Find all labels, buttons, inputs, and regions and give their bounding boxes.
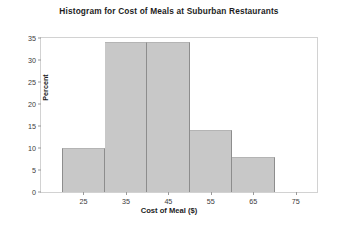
histogram-bar: [232, 157, 274, 192]
y-axis-tick-label: 25: [2, 78, 36, 87]
histogram-bar: [147, 42, 189, 192]
y-axis-tick-mark: [38, 82, 41, 83]
y-axis-tick-mark: [38, 148, 41, 149]
x-axis-tick-label: 45: [148, 197, 188, 206]
chart-title: Histogram for Cost of Meals at Suburban …: [0, 6, 338, 16]
y-axis-tick-label: 20: [2, 100, 36, 109]
x-axis-tick-mark: [296, 192, 297, 195]
y-axis-tick-mark: [38, 126, 41, 127]
histogram-bar: [190, 130, 232, 192]
y-axis-tick-label: 30: [2, 56, 36, 65]
histogram-bar: [105, 42, 147, 192]
x-axis-tick-mark: [126, 192, 127, 195]
x-axis-tick-mark: [253, 192, 254, 195]
plot-area: [41, 38, 317, 192]
histogram-bar: [62, 148, 104, 192]
y-axis-tick-mark: [38, 170, 41, 171]
x-axis-label: Cost of Meal ($): [0, 206, 338, 215]
y-axis-tick-label: 10: [2, 144, 36, 153]
y-axis-tick-mark: [38, 192, 41, 193]
x-axis-tick-label: 75: [276, 197, 316, 206]
x-axis-tick-mark: [168, 192, 169, 195]
plot-frame: Percent 05101520253035253545556575: [40, 37, 318, 193]
y-axis-tick-mark: [38, 104, 41, 105]
histogram-figure: Histogram for Cost of Meals at Suburban …: [0, 0, 338, 230]
x-axis-tick-label: 55: [191, 197, 231, 206]
x-axis-tick-mark: [211, 192, 212, 195]
y-axis-tick-label: 35: [2, 34, 36, 43]
y-axis-tick-mark: [38, 38, 41, 39]
y-axis-tick-label: 5: [2, 166, 36, 175]
y-axis-tick-label: 0: [2, 188, 36, 197]
x-axis-tick-label: 35: [106, 197, 146, 206]
y-axis-tick-mark: [38, 60, 41, 61]
y-axis-tick-label: 15: [2, 122, 36, 131]
x-axis-tick-label: 65: [233, 197, 273, 206]
x-axis-tick-label: 25: [63, 197, 103, 206]
x-axis-tick-mark: [83, 192, 84, 195]
